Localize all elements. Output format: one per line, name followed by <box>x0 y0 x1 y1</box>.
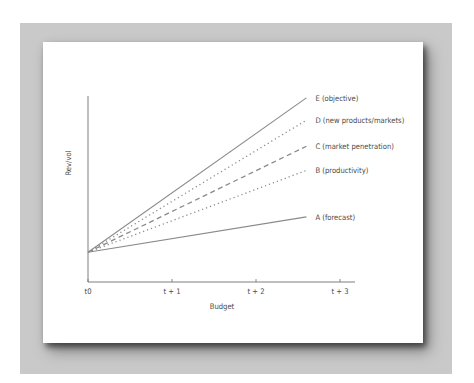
gap-analysis-chart: E (objective)D (new products/markets)C (… <box>0 0 474 383</box>
x-tick-label: t + 3 <box>331 287 348 296</box>
x-tick-label: t + 2 <box>247 287 264 296</box>
x-axis-label: Budget <box>210 302 235 311</box>
series-label-e: E (objective) <box>315 94 358 103</box>
series-label-d: D (new products/markets) <box>315 116 404 125</box>
series-lines <box>88 98 306 252</box>
series-line-c <box>88 146 306 252</box>
x-tick-label: t0 <box>84 287 91 296</box>
y-axis-label: Rev/vol <box>64 150 73 175</box>
series-line-e <box>88 98 306 252</box>
series-label-b: B (productivity) <box>315 166 368 175</box>
series-line-d <box>88 120 306 252</box>
series-label-c: C (market penetration) <box>315 142 394 151</box>
series-line-a <box>88 217 306 252</box>
x-tick-label: t + 1 <box>163 287 180 296</box>
series-labels: E (objective)D (new products/markets)C (… <box>315 94 404 222</box>
series-label-a: A (forecast) <box>315 213 355 222</box>
series-line-b <box>88 170 306 252</box>
